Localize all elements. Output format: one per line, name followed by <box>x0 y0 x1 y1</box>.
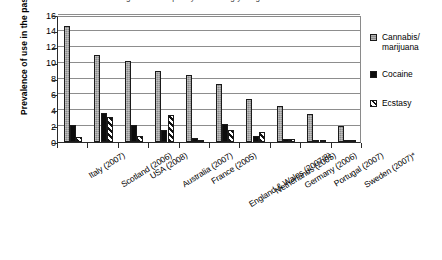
chart-title-text: Prevalence of drug use in the past year … <box>60 0 285 2</box>
x-axis-tick-mark <box>270 143 271 148</box>
x-axis-tick-mark <box>361 143 362 148</box>
bar-ecstasy <box>289 139 295 142</box>
bar-ecstasy <box>137 136 143 142</box>
x-axis-tick-mark <box>300 143 301 148</box>
legend-item-cocaine[interactable]: Cocaine <box>370 70 413 80</box>
bar-cannabis <box>277 106 283 143</box>
legend-label: Cocaine <box>382 70 413 80</box>
legend-label: Cannabis/ marijuana <box>382 33 440 52</box>
bar-ecstasy <box>350 140 356 142</box>
x-axis-tick-mark <box>118 143 119 148</box>
plot-area <box>57 16 361 143</box>
legend-swatch-cannabis-icon <box>370 34 377 41</box>
x-axis-tick-mark <box>209 143 210 148</box>
legend-swatch-cocaine-icon <box>370 71 377 78</box>
x-axis-tick-mark <box>87 143 88 148</box>
bar-cannabis <box>307 114 313 142</box>
gridline <box>58 109 360 110</box>
x-axis-category-label: Italy (2007) <box>87 151 126 180</box>
gridline <box>58 30 360 31</box>
x-axis-tick-mark <box>239 143 240 148</box>
x-axis-tick-mark <box>179 143 180 148</box>
gridline <box>58 93 360 94</box>
bar-ecstasy <box>259 132 265 142</box>
legend-item-ecstasy[interactable]: Ecstasy <box>370 99 411 109</box>
legend-item-cannabis[interactable]: Cannabis/ marijuana <box>370 33 440 52</box>
gridline <box>58 14 360 15</box>
gridline <box>58 78 360 79</box>
legend-swatch-ecstasy-icon <box>370 100 377 107</box>
bar-ecstasy <box>320 140 326 142</box>
cropped-chart-title: Prevalence of drug use in the past year … <box>0 0 442 7</box>
x-axis-tick-mark <box>148 143 149 148</box>
bar-ecstasy <box>198 140 204 142</box>
legend-label: Ecstasy <box>382 99 411 109</box>
gridline <box>58 62 360 63</box>
bar-ecstasy <box>107 117 113 142</box>
y-axis-title: Prevalence of use in the past year (%) <box>19 0 29 115</box>
bar-ecstasy <box>168 115 174 142</box>
bar-ecstasy <box>76 137 82 142</box>
x-axis-tick-mark <box>331 143 332 148</box>
x-axis-tick-mark <box>57 143 58 148</box>
bar-cannabis <box>186 75 192 142</box>
gridline <box>58 46 360 47</box>
bar-ecstasy <box>228 130 234 142</box>
chart-figure: Prevalence of drug use in the past year … <box>0 0 442 260</box>
